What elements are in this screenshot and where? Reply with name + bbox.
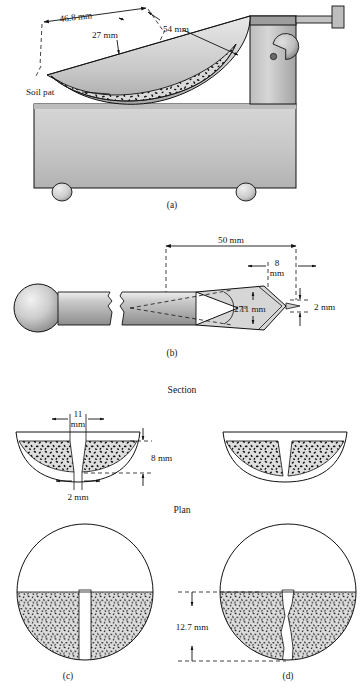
panel-a-device-side-view: Soil pat 46.8 mm 27 mm 54 mm (a) [26, 6, 344, 211]
soil-pat-label: Soil pat [26, 87, 55, 97]
caption-c: (c) [63, 671, 73, 682]
crank-handle[interactable] [296, 6, 344, 28]
grooving-tool-shaft-left [58, 292, 112, 325]
section-heading: Section [168, 384, 197, 395]
plan-view-c: (c) [17, 524, 153, 682]
base-foot-right [236, 183, 256, 201]
panel-b-grooving-tool: 27° 50 mm 8 mm 11 mm 2 [14, 235, 335, 359]
dim-11mm-blade-label: 11 mm [240, 304, 265, 314]
figure-casagrande-liquid-limit-device: Soil pat 46.8 mm 27 mm 54 mm (a) [0, 0, 363, 693]
dim-2mm-groove-label: 2 mm [67, 492, 88, 502]
base-block [34, 104, 296, 188]
dim-11mm-label-line2: mm [71, 419, 85, 429]
section-view-d-cup [223, 432, 347, 482]
plan-heading: Plan [173, 504, 190, 515]
dim-11mm-label-line1: 11 [74, 409, 83, 419]
dim-12-7mm-label: 12.7 mm [176, 622, 209, 632]
caption-b: (b) [167, 348, 178, 359]
dim-27mm: 27 mm [92, 18, 124, 54]
dim-50mm-label: 50 mm [218, 235, 244, 245]
dim-8mm-depth-label: 8 mm [151, 453, 172, 463]
dim-54mm-label: 54 mm [163, 24, 189, 34]
dim-8mm-label-line2: mm [270, 268, 284, 278]
dim-8mm: 8 mm [248, 258, 316, 290]
caption-a: (a) [167, 200, 177, 211]
plan-view-d: 12.7 mm (d) [176, 524, 356, 682]
base-foot-left [52, 183, 72, 201]
grooving-tool-handle [14, 284, 62, 332]
dim-2mm-tip-label: 2 mm [314, 302, 335, 312]
section-view-c-cup: 11 mm 8 mm 2 mm [16, 409, 172, 502]
dim-46-8mm-label: 46.8 mm [59, 10, 93, 24]
caption-d: (d) [283, 671, 294, 682]
dim-27mm-label: 27 mm [92, 30, 118, 40]
dim-8mm-label-line1: 8 [275, 258, 280, 268]
